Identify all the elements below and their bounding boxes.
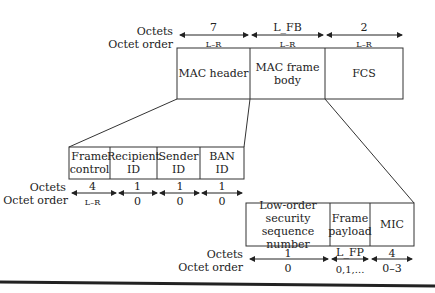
sender-id-order: 0 [159, 196, 201, 208]
field-ban-id: BAN ID [200, 147, 244, 179]
mic-order: 0–3 [370, 263, 414, 275]
octet-order-label-header: Octet order [0, 195, 68, 207]
field-recipient-id: Recipient ID [110, 147, 157, 179]
mac-header-octets: 7 [177, 22, 250, 34]
mic-octets: 4 [370, 248, 414, 260]
recipient-id-order: 0 [116, 196, 159, 208]
fcs-octets: 2 [325, 22, 403, 34]
low-order-ssn-order: 0 [246, 263, 330, 275]
field-low-order-security-sequence-number: Low-order security sequence number [246, 203, 330, 246]
field-sender-id: Sender ID [157, 147, 200, 179]
frame-payload-octets: L_FP [330, 247, 370, 259]
field-frame-payload: Frame payload [330, 203, 370, 246]
field-frame-control: Frame control [69, 147, 110, 179]
field-mac-header: MAC header [177, 48, 250, 99]
mac-frame-body-octets: L_FB [250, 22, 325, 34]
octets-label-top: Octets [80, 26, 173, 38]
octet-order-label-body: Octet order [130, 262, 243, 274]
field-mic: MIC [370, 203, 414, 246]
octets-label-header: Octets [0, 182, 66, 194]
frame-control-octets: 4 [69, 181, 116, 193]
ban-id-octets: 1 [201, 181, 243, 193]
field-fcs: FCS [325, 48, 403, 99]
sender-id-octets: 1 [159, 181, 201, 193]
octet-order-label-top: Octet order [60, 39, 173, 51]
ban-id-order: 0 [201, 196, 243, 208]
low-order-ssn-octets: 1 [246, 248, 330, 260]
field-mac-frame-body: MAC frame body [250, 48, 325, 99]
octets-label-body: Octets [150, 249, 243, 261]
frame-control-order: L–R [69, 197, 116, 209]
recipient-id-octets: 1 [116, 181, 159, 193]
frame-payload-order: 0,1,... [330, 264, 370, 276]
